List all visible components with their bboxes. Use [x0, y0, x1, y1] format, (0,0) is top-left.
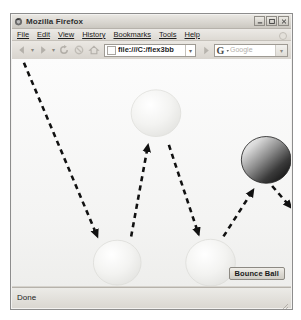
- arrow-4-up-right: [223, 190, 253, 237]
- figure-caption: [8, 0, 238, 11]
- arrow-5-down-right: [272, 186, 291, 207]
- url-history-dropdown-icon[interactable]: ▾: [185, 45, 194, 56]
- title-bar: Mozilla Firefox: [12, 15, 291, 29]
- menu-item-help-label: Help: [185, 30, 200, 39]
- stop-icon[interactable]: [72, 44, 85, 57]
- search-input[interactable]: Google: [230, 45, 275, 55]
- maximize-button[interactable]: [266, 16, 277, 26]
- page-favicon-icon: [107, 46, 116, 55]
- menu-item-help[interactable]: Help: [185, 30, 200, 40]
- menu-item-tools-label: Tools: [159, 30, 177, 39]
- url-bar[interactable]: file:///C:/flex3bb ▾: [104, 44, 196, 57]
- menu-item-tools[interactable]: Tools: [159, 30, 177, 40]
- menu-item-view-label: View: [58, 30, 74, 39]
- menu-item-bookmarks-label: Bookmarks: [114, 30, 152, 39]
- menu-item-edit-label: Edit: [37, 30, 50, 39]
- menu-item-history[interactable]: History: [82, 30, 105, 40]
- arrow-1-down-left: [24, 63, 97, 237]
- status-bar: Done: [12, 287, 291, 308]
- minimize-button[interactable]: [254, 16, 265, 26]
- menu-item-view[interactable]: View: [58, 30, 74, 40]
- search-options-dropdown-icon[interactable]: ▾: [275, 45, 287, 56]
- arrow-3-down-right: [169, 145, 199, 235]
- menu-item-file-label: File: [17, 30, 29, 39]
- svg-text:G: G: [216, 45, 224, 56]
- back-dropdown-caret-icon[interactable]: ▾: [30, 47, 34, 53]
- menu-item-edit[interactable]: Edit: [37, 30, 50, 40]
- search-bar[interactable]: G Google ▾: [214, 44, 288, 57]
- go-arrow-icon[interactable]: [200, 44, 212, 57]
- url-input[interactable]: file:///C:/flex3bb: [118, 45, 185, 55]
- status-text: Done: [17, 293, 36, 303]
- close-button[interactable]: [278, 16, 289, 26]
- ball-top-middle: [131, 90, 181, 137]
- menu-bar-status-indicator: [279, 32, 287, 40]
- browser-window: Mozilla Firefox File Edit View History B…: [10, 13, 293, 310]
- menu-bar: File Edit View History Bookmarks Tools H…: [12, 29, 291, 41]
- page-content-area: Bounce Ball: [12, 59, 291, 286]
- home-icon[interactable]: [87, 44, 100, 57]
- window-controls: [254, 16, 289, 26]
- ball-right-dark: [241, 137, 291, 184]
- ball-bottom-middle: [186, 239, 236, 286]
- forward-arrow-icon[interactable]: [36, 44, 49, 57]
- back-arrow-icon[interactable]: [15, 44, 28, 57]
- window-title: Mozilla Firefox: [26, 17, 83, 27]
- forward-dropdown-caret-icon[interactable]: ▾: [51, 47, 55, 53]
- resize-grip-icon[interactable]: [280, 297, 289, 306]
- firefox-icon: [14, 17, 23, 26]
- arrow-2-up-right: [131, 145, 148, 237]
- navigation-toolbar: ▾ ▾ file:///C:/flex3bb ▾: [12, 41, 291, 60]
- menu-item-file[interactable]: File: [17, 30, 29, 40]
- menu-item-bookmarks[interactable]: Bookmarks: [114, 30, 152, 40]
- reload-icon[interactable]: [57, 44, 70, 57]
- bounce-ball-button[interactable]: Bounce Ball: [229, 267, 285, 280]
- ball-bottom-left: [93, 240, 141, 285]
- search-engine-icon[interactable]: G: [215, 45, 230, 56]
- menu-item-history-label: History: [82, 30, 105, 39]
- bouncing-ball-animation-canvas[interactable]: [12, 59, 291, 286]
